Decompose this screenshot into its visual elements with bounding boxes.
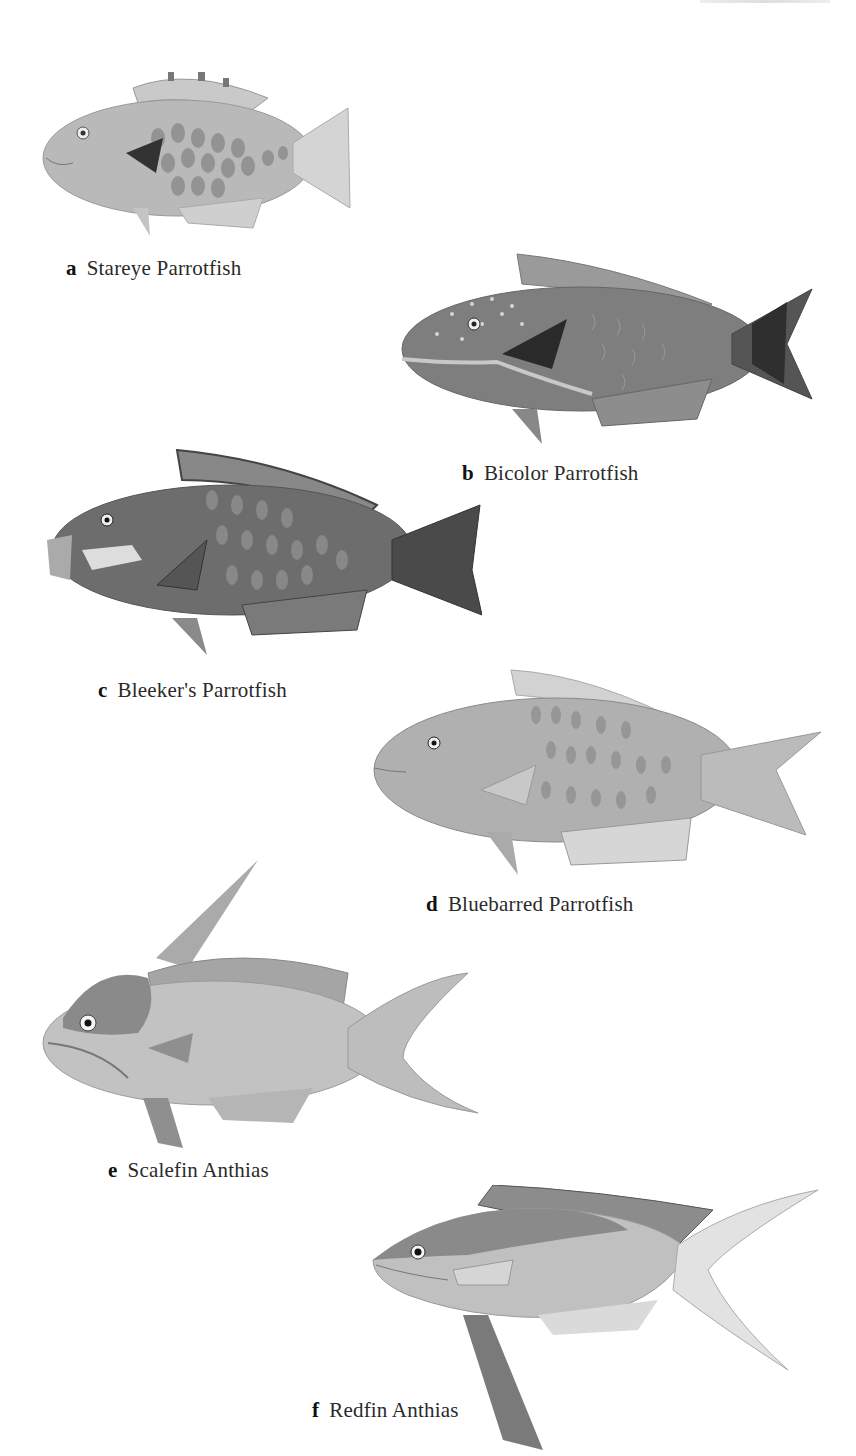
top-edge-mark [700, 0, 830, 3]
caption-letter: a [66, 256, 77, 280]
species-plate: aStareye Parrotfish bBicolor Parrotfish [0, 0, 856, 1456]
caption-letter: c [98, 678, 108, 702]
caption-a: aStareye Parrotfish [66, 256, 241, 281]
illustration-bleekers-parrotfish [42, 440, 482, 660]
caption-name: Stareye Parrotfish [87, 256, 242, 280]
caption-c: cBleeker's Parrotfish [98, 678, 287, 703]
illustration-scalefin-anthias [38, 858, 478, 1148]
caption-b: bBicolor Parrotfish [462, 461, 639, 486]
caption-name: Bleeker's Parrotfish [118, 678, 287, 702]
caption-letter: e [108, 1158, 118, 1182]
illustration-stareye-parrotfish [38, 58, 358, 238]
illustration-bicolor-parrotfish [392, 244, 816, 448]
caption-letter: f [312, 1398, 319, 1422]
caption-name: Redfin Anthias [329, 1398, 458, 1422]
illustration-bluebarred-parrotfish [366, 660, 826, 880]
caption-name: Scalefin Anthias [128, 1158, 269, 1182]
caption-name: Bicolor Parrotfish [484, 461, 639, 485]
caption-e: eScalefin Anthias [108, 1158, 269, 1183]
caption-f: fRedfin Anthias [312, 1398, 459, 1423]
